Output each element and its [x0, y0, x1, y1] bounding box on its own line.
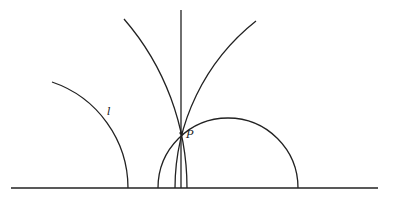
label-p: P: [186, 128, 193, 141]
label-l: l: [107, 105, 111, 118]
left-large-geodesic: [124, 19, 187, 188]
geodesic-l: [52, 82, 128, 188]
diagram-canvas: l P: [0, 0, 393, 201]
semicircle-geodesic: [158, 118, 298, 188]
right-large-geodesic: [175, 21, 256, 188]
point-p-marker: [179, 131, 182, 134]
geodesics-figure: [0, 0, 393, 201]
